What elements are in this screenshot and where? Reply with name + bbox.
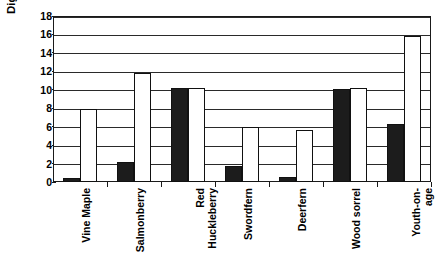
bar-dark xyxy=(117,162,134,182)
x-tick-mark xyxy=(215,182,216,187)
bar-light xyxy=(188,88,205,182)
x-category-label: Red Huckleberry xyxy=(194,188,212,278)
x-category-label: Swordfern xyxy=(242,188,260,278)
bar-light xyxy=(242,127,259,182)
x-axis-category-labels: Vine MapleSalmonberryRed HuckleberrySwor… xyxy=(53,188,431,280)
bar-dark xyxy=(333,89,350,182)
bar-group xyxy=(377,16,431,182)
x-tick-mark xyxy=(269,182,270,187)
y-tick-label: 4 xyxy=(8,140,52,150)
y-tick-label: 10 xyxy=(8,85,52,95)
bar-group xyxy=(53,16,107,182)
bar-chart-figure: Digestible protein (%) 024681012141618 V… xyxy=(0,0,441,280)
bar-light xyxy=(134,73,151,182)
y-tick-label: 18 xyxy=(8,11,52,21)
x-category-label: Salmonberry xyxy=(134,188,152,278)
bar-dark xyxy=(387,124,404,182)
bar-group xyxy=(107,16,161,182)
bars-layer xyxy=(53,16,431,182)
bar-group xyxy=(323,16,377,182)
bar-light xyxy=(350,88,367,182)
x-category-label: Deerfern xyxy=(296,188,314,278)
bar-group xyxy=(215,16,269,182)
bar-light xyxy=(404,36,421,182)
bar-dark xyxy=(225,166,242,182)
y-tick-label: 12 xyxy=(8,66,52,76)
y-tick-label: 16 xyxy=(8,29,52,39)
bar-dark xyxy=(171,88,188,182)
y-tick-label: 6 xyxy=(8,122,52,132)
bar-group xyxy=(161,16,215,182)
x-tick-mark xyxy=(107,182,108,187)
bar-light xyxy=(296,130,313,182)
x-tick-mark xyxy=(323,182,324,187)
y-tick-label: 14 xyxy=(8,48,52,58)
y-tick-label: 0 xyxy=(8,177,52,187)
x-category-label: Wood sorrel xyxy=(350,188,368,278)
y-axis-tick-labels: 024681012141618 xyxy=(0,16,52,182)
y-tick-label: 2 xyxy=(8,159,52,169)
x-category-label: Vine Maple xyxy=(80,188,98,278)
x-tick-mark xyxy=(431,182,432,187)
x-category-label: Youth-on- age xyxy=(410,188,428,278)
bar-light xyxy=(80,109,97,182)
x-tick-mark xyxy=(377,182,378,187)
bar-group xyxy=(269,16,323,182)
y-tick-label: 8 xyxy=(8,103,52,113)
x-tick-mark xyxy=(161,182,162,187)
